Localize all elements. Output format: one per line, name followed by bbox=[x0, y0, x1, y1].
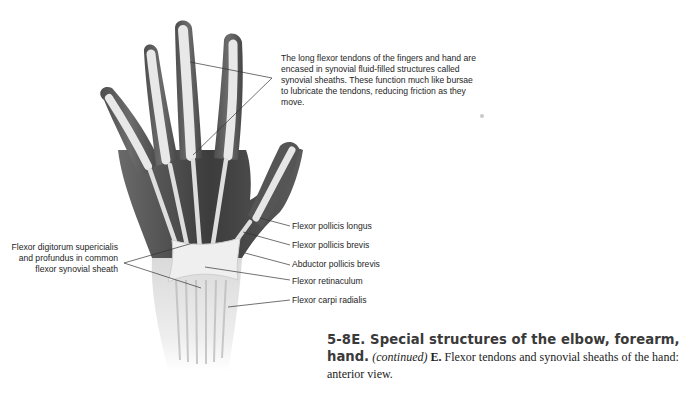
caption-line-2: hand. (continued) E. Flexor tendons and … bbox=[327, 348, 685, 366]
label-flexor-pollicis-brevis: Flexor pollicis brevis bbox=[292, 240, 369, 251]
label-abductor-pollicis-brevis: Abductor pollicis brevis bbox=[292, 259, 380, 270]
label-flexor-retinaculum: Flexor retinaculum bbox=[292, 276, 363, 287]
caption-panel-letter: E. bbox=[430, 350, 441, 364]
caption-title: 5-8E. Special structures of the elbow, f… bbox=[327, 331, 685, 348]
artifact-speck bbox=[480, 114, 484, 118]
caption-title-end: hand. bbox=[327, 349, 369, 364]
figure: The long flexor tendons of the fingers a… bbox=[0, 0, 685, 401]
figure-caption: 5-8E. Special structures of the elbow, f… bbox=[327, 331, 685, 383]
label-flexor-pollicis-longus: Flexor pollicis longus bbox=[292, 221, 372, 232]
caption-continued: (continued) bbox=[372, 350, 427, 364]
label-flexor-carpi-radialis: Flexor carpi radialis bbox=[292, 295, 367, 306]
callout-synovial-sheaths: The long flexor tendons of the fingers a… bbox=[281, 53, 481, 108]
caption-description: Flexor tendons and synovial sheaths of t… bbox=[444, 350, 678, 364]
callout-flexor-digitorum: Flexor digitorum supericialis and profun… bbox=[0, 242, 118, 275]
caption-description-end: anterior view. bbox=[327, 366, 685, 383]
